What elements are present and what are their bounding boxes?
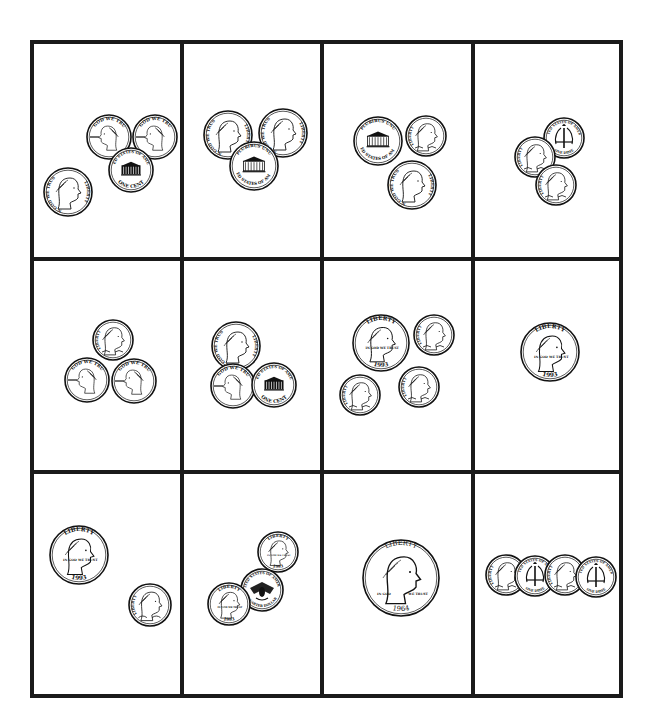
svg-text:IN GOD WE TRUST: IN GOD WE TRUST bbox=[267, 554, 291, 557]
nickel-front-icon[interactable]: IN GOD WE TRUSTLIBERTY bbox=[388, 161, 436, 209]
svg-text:IN GOD WE TRUST: IN GOD WE TRUST bbox=[366, 346, 400, 350]
penny-back-icon[interactable]: UNITED STATES OF AMERICAONE CENT bbox=[109, 148, 153, 192]
penny-front-icon[interactable]: IN GOD WE TRUST bbox=[211, 364, 255, 408]
dime-back-icon[interactable]: UNITED STATES OF AMERICAONE DIME bbox=[576, 557, 616, 597]
penny-front-icon[interactable]: IN GOD WE TRUST bbox=[112, 359, 156, 403]
quarter-front-icon[interactable]: LIBERTYIN GOD WE TRUST1993 bbox=[353, 315, 409, 371]
dime-front-icon[interactable]: LIBERTY bbox=[93, 320, 133, 360]
dime-front-icon[interactable]: LIBERTY bbox=[399, 367, 439, 407]
quarter-front-icon[interactable]: LIBERTYIN GOD WE TRUST1993 bbox=[208, 583, 250, 625]
quarter-front-icon[interactable]: LIBERTYIN GOD WE TRUST1993 bbox=[50, 526, 108, 584]
dime-front-icon[interactable]: LIBERTY bbox=[406, 116, 446, 156]
penny-front-icon[interactable]: IN GOD WE TRUST bbox=[65, 358, 109, 402]
svg-text:1993: 1993 bbox=[272, 563, 284, 569]
svg-text:IN GOD WE TRUST: IN GOD WE TRUST bbox=[63, 558, 98, 562]
coin-layer: IN GOD WE TRUSTIN GOD WE TRUSTUNITED STA… bbox=[0, 0, 653, 726]
dime-front-icon[interactable]: LIBERTY bbox=[129, 584, 171, 626]
nickel-front-icon[interactable]: IN GOD WE TRUSTLIBERTY bbox=[212, 322, 260, 370]
quarter-front-icon[interactable]: LIBERTYIN GOD WE TRUST1993 bbox=[521, 323, 579, 381]
quarter-front-icon[interactable]: LIBERTYIN GOD WE TRUST1993 bbox=[258, 532, 298, 572]
svg-text:IN GOD WE TRUST: IN GOD WE TRUST bbox=[534, 355, 569, 359]
nickel-front-icon[interactable]: IN GOD WE TRUSTLIBERTY bbox=[44, 168, 92, 216]
nickel-back-icon[interactable]: E PLURIBUS UNUMUNITED STATES OF AMERICA bbox=[230, 142, 278, 190]
penny-back-icon[interactable]: UNITED STATES OF AMERICAONE CENT bbox=[252, 363, 296, 407]
dime-front-icon[interactable]: LIBERTY bbox=[414, 315, 454, 355]
svg-text:WE TRUST: WE TRUST bbox=[407, 592, 428, 596]
svg-text:IN GOD WE TRUST: IN GOD WE TRUST bbox=[217, 606, 242, 609]
dime-front-icon[interactable]: LIBERTY bbox=[536, 165, 576, 205]
svg-text:IN GOD: IN GOD bbox=[377, 592, 391, 596]
dime-front-icon[interactable]: LIBERTY bbox=[340, 375, 380, 415]
half-dollar-front-icon[interactable]: LIBERTYIN GODWE TRUST1964 bbox=[363, 539, 439, 616]
nickel-back-icon[interactable]: E PLURIBUS UNUMUNITED STATES OF AMERICA bbox=[354, 117, 402, 165]
coin-worksheet: IN GOD WE TRUSTIN GOD WE TRUSTUNITED STA… bbox=[0, 0, 653, 726]
